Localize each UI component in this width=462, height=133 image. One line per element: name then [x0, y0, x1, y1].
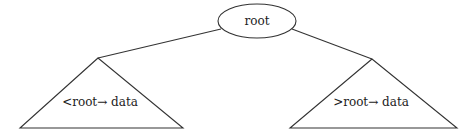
tree-diagram: root <root→ data >root→ data: [0, 0, 462, 133]
left-subtree: <root→ data: [20, 58, 183, 128]
edge-root-left: [98, 29, 221, 58]
root-label: root: [244, 14, 269, 28]
edge-root-right: [292, 29, 372, 59]
right-subtree: >root→ data: [290, 59, 457, 128]
right-subtree-label: >root→ data: [333, 95, 409, 109]
root-node: root: [218, 4, 296, 38]
left-subtree-label: <root→ data: [62, 95, 138, 109]
